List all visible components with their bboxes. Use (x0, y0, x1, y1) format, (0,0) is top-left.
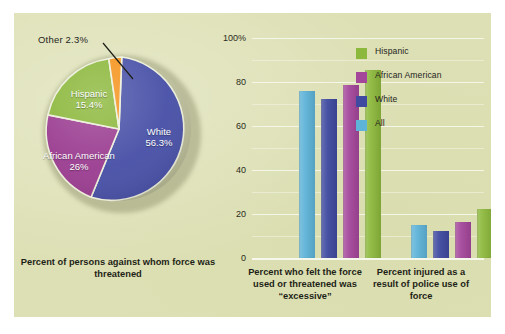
legend-label-hispanic: Hispanic (375, 46, 409, 56)
legend-label-white: White (375, 94, 397, 104)
pie-gloss (47, 57, 191, 201)
figure-root: White 56.3% African American 26% Hispani… (0, 0, 505, 334)
bar-group1-white (321, 99, 337, 259)
legend-swatch-african-american-icon (356, 72, 367, 83)
pie-label-other: Other 2.3% (38, 34, 88, 45)
legend-item-african-american[interactable]: African American (356, 70, 476, 90)
legend-label-african-american: African American (375, 70, 442, 80)
ytick-20: 20 (202, 209, 246, 219)
ytick-0: 0 (202, 253, 246, 263)
ytick-60: 60 (202, 121, 246, 131)
bar-group2-african-american (455, 222, 471, 258)
bar-chart-region: 100% 80 60 40 20 0 (219, 13, 491, 317)
legend-swatch-all-icon (356, 120, 367, 131)
bar-group2-caption: Percent injured as a result of police us… (369, 266, 473, 302)
legend-swatch-white-icon (356, 96, 367, 107)
ytick-80: 80 (202, 77, 246, 87)
gridline-100 (252, 38, 484, 39)
legend-swatch-hispanic-icon (356, 48, 367, 59)
pie-slices (40, 50, 198, 208)
ytick-100: 100% (202, 33, 246, 43)
bar-group1-caption: Percent who felt the force used or threa… (244, 266, 366, 302)
bar-group2-hispanic (477, 209, 491, 259)
bar-group2-white (433, 231, 449, 259)
pie-chart: White 56.3% African American 26% Hispani… (40, 50, 198, 208)
legend-item-hispanic[interactable]: Hispanic (356, 46, 476, 66)
pie-chart-region: White 56.3% African American 26% Hispani… (14, 13, 219, 317)
bar-group2-all (411, 225, 427, 258)
legend-item-all[interactable]: All (356, 118, 476, 138)
legend-label-all: All (375, 118, 385, 128)
axis-baseline (252, 258, 484, 260)
legend-item-white[interactable]: White (356, 94, 476, 114)
legend: Hispanic African American White All (356, 46, 476, 142)
bar-group1-all (299, 91, 315, 258)
chart-panel: White 56.3% African American 26% Hispani… (14, 13, 491, 317)
ytick-40: 40 (202, 165, 246, 175)
pie-caption: Percent of persons against whom force wa… (20, 256, 216, 280)
